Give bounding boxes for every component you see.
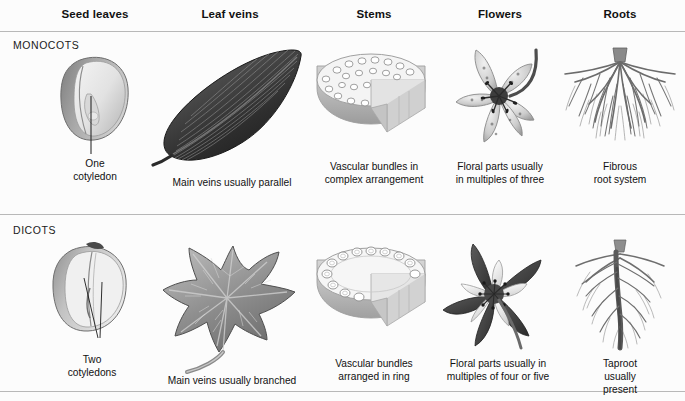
- monocot-flower-illustration: [440, 44, 560, 154]
- monocot-stem-cross-section-illustration: [309, 46, 439, 151]
- caption-monocot-stems: Vascular bundles in complex arrangement: [325, 160, 424, 186]
- column-header-roots: Roots: [603, 8, 636, 20]
- caption-dicot-roots: Taproot usually present: [588, 357, 653, 397]
- fibrous-root-system-illustration: [555, 44, 685, 154]
- caption-monocot-seed-leaves: One cotyledon: [73, 157, 117, 183]
- caption-dicot-stems: Vascular bundles arranged in ring: [335, 357, 412, 383]
- caption-monocot-flowers: Floral parts usually in multiples of thr…: [456, 160, 544, 186]
- monocot-leaf-illustration: [147, 42, 317, 167]
- caption-dicot-leaf-veins: Main veins usually branched: [168, 374, 297, 387]
- column-header-leaf-veins: Leaf veins: [201, 8, 258, 20]
- column-header-stems: Stems: [356, 8, 391, 20]
- caption-monocot-roots: Fibrous root system: [594, 160, 647, 186]
- dicot-seed-illustration: [42, 238, 142, 348]
- row-label-dicots: DICOTS: [13, 224, 56, 236]
- column-header-flowers: Flowers: [478, 8, 522, 20]
- column-header-seed-leaves: Seed leaves: [62, 8, 129, 20]
- caption-monocot-leaf-veins: Main veins usually parallel: [173, 176, 292, 189]
- caption-dicot-flowers: Floral parts usually in multiples of fou…: [447, 357, 549, 383]
- taproot-system-illustration: [560, 238, 680, 353]
- divider-middle: [0, 214, 685, 215]
- monocot-seed-illustration: [50, 50, 140, 155]
- caption-dicot-seed-leaves: Two cotyledons: [68, 353, 117, 379]
- divider-top: [0, 31, 685, 32]
- monocot-dicot-comparison-chart: Seed leaves Leaf veins Stems Flowers Roo…: [0, 0, 685, 401]
- dicot-stem-cross-section-illustration: [309, 240, 439, 345]
- dicot-leaf-illustration: [157, 240, 307, 375]
- divider-bottom: [0, 391, 685, 392]
- dicot-flower-illustration: [433, 238, 563, 353]
